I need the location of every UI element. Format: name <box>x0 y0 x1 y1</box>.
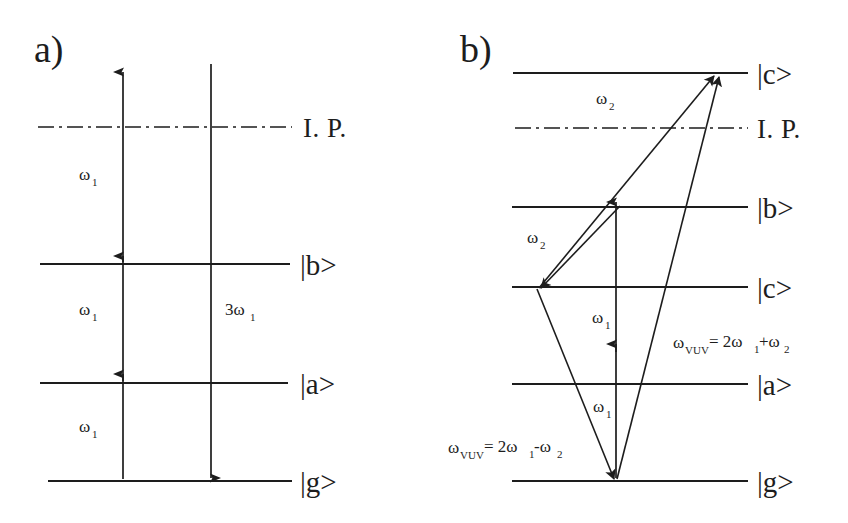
svg-text:ω: ω <box>596 89 607 108</box>
panel-b-formula-vuv-sum: ω VUV = 2ω 1 +ω 2 <box>673 332 790 356</box>
panel-b-level-a-label: |a> <box>757 369 792 401</box>
panel-a: a) I. P. |b> |a> |g> ω 1 ω 1 ω <box>34 28 347 498</box>
panel-a-level-g-label: |g> <box>300 466 337 498</box>
panel-a-letter: a) <box>34 28 64 71</box>
svg-text:1: 1 <box>606 408 612 420</box>
panel-a-level-b-label: |b> <box>300 249 337 281</box>
svg-text:ω: ω <box>79 417 90 436</box>
svg-text:VUV: VUV <box>460 449 484 461</box>
svg-text:ω: ω <box>673 333 684 352</box>
svg-text:2: 2 <box>609 100 615 112</box>
svg-text:1: 1 <box>92 428 98 440</box>
panel-b-level-c-lower-label: |c> <box>757 272 792 304</box>
svg-text:ω: ω <box>79 165 90 184</box>
svg-text:= 2ω: = 2ω <box>709 332 743 351</box>
svg-text:+ω: +ω <box>759 332 780 351</box>
svg-text:-ω: -ω <box>534 437 551 456</box>
figure-canvas: a) I. P. |b> |a> |g> ω 1 ω 1 ω <box>0 0 848 523</box>
panel-a-label-w1-middle: ω 1 <box>79 300 98 323</box>
panel-b-arrow-vuv-sum <box>617 77 719 479</box>
svg-text:ω: ω <box>79 300 90 319</box>
svg-text:3ω: 3ω <box>225 300 245 319</box>
svg-text:1: 1 <box>92 176 98 188</box>
svg-text:ω: ω <box>593 397 604 416</box>
panel-b-letter: b) <box>460 28 492 71</box>
panel-a-level-ip-label: I. P. <box>303 113 347 143</box>
panel-a-level-a-label: |a> <box>300 368 335 400</box>
svg-text:ω: ω <box>592 308 603 327</box>
svg-text:VUV: VUV <box>685 344 709 356</box>
panel-b-label-w2-upper: ω 2 <box>596 89 615 112</box>
svg-text:1: 1 <box>250 311 256 323</box>
panel-b-level-g-label: |g> <box>757 466 794 498</box>
panel-b-formula-vuv-difference: ω VUV = 2ω 1 -ω 2 <box>448 437 563 461</box>
svg-text:2: 2 <box>784 343 790 355</box>
panel-b-arrow-w2-lower <box>541 206 620 288</box>
panel-b-label-w2-lower: ω 2 <box>527 228 546 251</box>
panel-b-level-c-upper-label: |c> <box>757 58 792 90</box>
svg-text:1: 1 <box>605 319 611 331</box>
panel-b: b) |c> I. P. |b> |c> |a> |g> ω <box>448 28 801 498</box>
svg-text:ω: ω <box>527 228 538 247</box>
svg-text:2: 2 <box>557 448 563 460</box>
panel-b-label-w1-upper-vertical: ω 1 <box>592 308 611 331</box>
svg-text:2: 2 <box>540 239 546 251</box>
svg-text:1: 1 <box>92 311 98 323</box>
panel-b-level-ip-label: I. P. <box>757 114 801 144</box>
panel-a-label-3w1: 3ω 1 <box>225 300 256 323</box>
panel-b-label-w1-lower-vertical: ω 1 <box>593 397 612 420</box>
svg-text:= 2ω: = 2ω <box>484 437 518 456</box>
panel-b-level-b-label: |b> <box>757 192 794 224</box>
panel-a-label-w1-lower: ω 1 <box>79 417 98 440</box>
panel-a-label-w1-upper: ω 1 <box>79 165 98 188</box>
panel-b-arrow-w2-upper <box>539 76 714 288</box>
svg-text:ω: ω <box>448 438 459 457</box>
energy-level-diagram: a) I. P. |b> |a> |g> ω 1 ω 1 ω <box>0 0 848 523</box>
